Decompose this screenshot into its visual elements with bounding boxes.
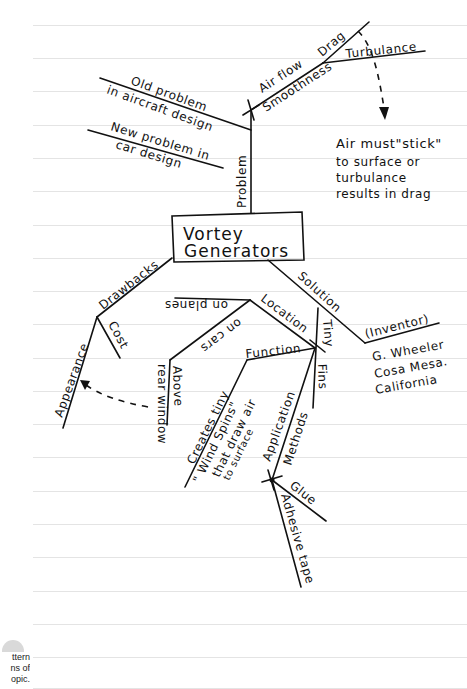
cropped-caption: ttern ns of opic.: [0, 652, 30, 685]
central-node-line2: Generators: [184, 241, 289, 261]
caption-line1: ttern: [0, 652, 30, 663]
label-drawbacks: Drawbacks: [96, 257, 161, 312]
label-cost: Cost: [105, 319, 131, 351]
label-appearance: Appearance: [52, 341, 92, 419]
label-on-planes: on planes: [164, 298, 228, 312]
caption-line3: opic.: [0, 674, 30, 685]
note-line1: Air must"stick": [336, 136, 442, 151]
label-location: Location: [258, 291, 311, 336]
branch-drawbacks: Drawbacks Appearance Cost: [52, 257, 172, 428]
arrow-head-icon: [379, 107, 389, 120]
label-solution: Solution: [295, 269, 344, 315]
label-problem: Problem: [235, 155, 249, 208]
label-function: Function: [245, 341, 302, 361]
central-node: Vortey Generators: [172, 212, 304, 262]
note-line2: to surface or: [336, 155, 420, 169]
note-line3: turbulance: [336, 171, 407, 185]
label-inventor: (Inventor): [363, 311, 430, 340]
label-above: Above: [170, 366, 185, 407]
arrow-head-icon: [80, 380, 90, 390]
mind-map: Vortey Generators Problem Old problem in…: [0, 0, 467, 689]
label-rear-window: rear window: [155, 364, 169, 444]
branch-solution: Solution (Inventor) G. Wheeler Cosa Mesa…: [155, 260, 449, 587]
label-turbulance: Turbulance: [344, 40, 418, 62]
label-tiny: Tiny: [320, 318, 336, 348]
caption-line2: ns of: [0, 663, 30, 674]
note-line4: results in drag: [336, 187, 431, 201]
label-fins: Fins: [315, 364, 330, 390]
branch-problem: Problem Old problem in aircraft design N…: [88, 22, 442, 213]
